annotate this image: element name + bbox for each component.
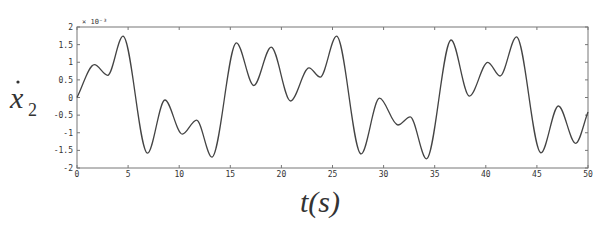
x-tick-label: 20 [277,170,287,179]
x-tick-label: 40 [481,170,491,179]
x-tick-label: 35 [430,170,440,179]
y-axis-title-dot [16,80,19,83]
x-tick-label: 25 [328,170,338,179]
y-tick-label: 1.5 [59,41,74,50]
line-chart: 05101520253035404550 21.510.50-0.5-1-1.5… [0,0,613,230]
data-line [77,36,588,159]
y-tick-label: 2 [68,23,73,32]
y-axis-title-subscript: 2 [28,100,37,120]
y-tick-label: -1.5 [54,146,73,155]
x-tick-label: 0 [75,170,80,179]
x-tick-label: 10 [174,170,184,179]
y-tick-labels: 21.510.50-0.5-1-1.5-2 [54,23,73,173]
y-axis-title: x 2 [9,80,37,120]
x-tick-label: 5 [126,170,131,179]
x-tick-label: 50 [583,170,593,179]
x-tick-label: 30 [379,170,389,179]
x-tick-labels: 05101520253035404550 [75,170,593,179]
x-axis-title: t(s) [300,185,340,219]
y-tick-label: 1 [68,58,73,67]
x-tick-label: 45 [532,170,542,179]
y-tick-label: 0.5 [59,76,74,85]
y-tick-label: 0 [68,94,73,103]
y-tick-label: -1 [63,129,73,138]
y-tick-label: -0.5 [54,111,73,120]
y-axis-title-symbol: x [9,81,24,114]
y-exponent-label: × 10⁻³ [82,18,107,26]
y-tick-label: -2 [63,164,73,173]
x-tick-label: 15 [225,170,235,179]
